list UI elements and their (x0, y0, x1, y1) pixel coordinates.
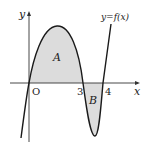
curve-label: y=f(x) (100, 12, 130, 22)
function-graph: y x O 3 4 A B y=f(x) (0, 0, 151, 148)
tick-label-3: 3 (77, 86, 83, 97)
y-axis-arrow-icon (27, 11, 31, 16)
x-axis-label: x (134, 85, 141, 98)
origin-label: O (32, 86, 40, 97)
region-b-label: B (88, 94, 97, 107)
tick-label-4: 4 (105, 86, 111, 97)
region-a-label: A (52, 51, 61, 64)
y-axis-label: y (18, 8, 26, 21)
